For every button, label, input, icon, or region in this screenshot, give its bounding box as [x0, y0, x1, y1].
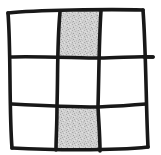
figure-canvas: Hand-drawn 3 by 3 grid with two shaded c…	[0, 0, 161, 155]
hand-drawn-grid	[0, 0, 161, 155]
grid-cell-r1c3[interactable]	[99, 10, 144, 58]
grid-cell-r3c3[interactable]	[98, 104, 148, 150]
shade-texture-r3c2	[56, 106, 100, 150]
grid-cell-r2c2[interactable]	[57, 58, 99, 107]
grid-cell-r2c3[interactable]	[98, 57, 146, 107]
grid-cell-r2c1[interactable]	[10, 57, 58, 106]
grid-cell-r1c1[interactable]	[8, 12, 60, 58]
inner-horizontal-top-line[interactable]	[10, 57, 153, 58]
shade-texture-r1c2	[58, 11, 101, 58]
grid-cell-r3c1[interactable]	[12, 104, 57, 149]
